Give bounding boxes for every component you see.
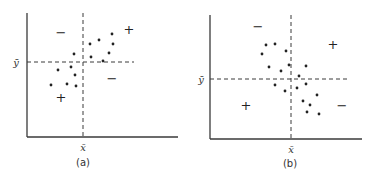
data-point — [50, 84, 53, 87]
quadrant-signs: −+−+ — [56, 22, 135, 105]
minus-sign: − — [253, 19, 264, 34]
data-point — [306, 111, 309, 114]
data-point — [298, 75, 301, 78]
minus-sign: − — [56, 25, 67, 40]
quadrant-signs: −++− — [241, 19, 348, 113]
data-point — [288, 64, 291, 67]
data-point — [73, 53, 76, 56]
y-mean-label: ȳ — [197, 74, 204, 85]
data-point — [305, 65, 308, 68]
plus-sign: + — [56, 90, 67, 105]
panel-b: −++− ȳ x̄ (b) — [197, 15, 362, 169]
data-point — [261, 53, 264, 56]
data-point — [108, 52, 111, 55]
minus-sign: − — [107, 71, 118, 86]
plus-sign: + — [241, 98, 252, 113]
data-point — [302, 100, 305, 103]
data-point — [111, 33, 114, 36]
data-point — [66, 83, 69, 86]
data-point — [75, 85, 78, 88]
data-point — [305, 83, 308, 86]
data-point — [89, 43, 92, 46]
data-point — [318, 113, 321, 116]
data-point — [280, 70, 283, 73]
data-point — [70, 66, 73, 69]
data-point — [98, 39, 101, 42]
minus-sign: − — [337, 98, 348, 113]
x-mean-label: x̄ — [288, 144, 294, 155]
data-point — [112, 43, 115, 46]
panel-caption: (b) — [283, 158, 297, 169]
scatter-figure: −+−+ ȳ x̄ (a) −++− ȳ x̄ (b) — [0, 0, 374, 177]
data-point — [309, 104, 312, 107]
x-mean-label: x̄ — [80, 142, 86, 153]
data-point — [274, 84, 277, 87]
data-point — [90, 56, 93, 59]
data-point — [265, 44, 268, 47]
data-point — [268, 66, 271, 69]
panel-a: −+−+ ȳ x̄ (a) — [12, 13, 178, 168]
data-point — [74, 74, 77, 77]
data-point — [316, 94, 319, 97]
plus-sign: + — [124, 22, 135, 37]
data-point — [285, 50, 288, 53]
plus-sign: + — [328, 37, 339, 52]
data-point — [284, 90, 287, 93]
y-mean-label: ȳ — [12, 57, 19, 68]
data-point — [296, 87, 299, 90]
data-point — [57, 69, 60, 72]
data-point — [274, 43, 277, 46]
data-point — [102, 60, 105, 63]
data-points — [50, 33, 115, 88]
panel-caption: (a) — [76, 157, 90, 168]
